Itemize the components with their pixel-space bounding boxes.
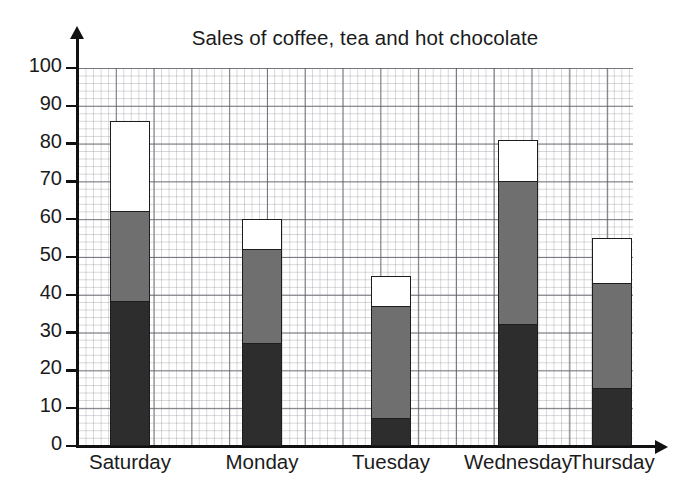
- bar-segment-coffee: [372, 419, 410, 445]
- bar-segment-coffee: [111, 302, 149, 445]
- y-axis-tick: [66, 331, 78, 334]
- y-axis-tick: [66, 218, 78, 221]
- y-axis-tick: [66, 256, 78, 259]
- chart-figure: Sales of coffee, tea and hot chocolate 1…: [0, 0, 691, 491]
- bar-segment-hot-chocolate: [593, 239, 631, 284]
- bar-saturday: [110, 121, 150, 446]
- y-axis-tick: [66, 67, 78, 70]
- y-axis-tick: [66, 369, 78, 372]
- chart-title: Sales of coffee, tea and hot chocolate: [130, 26, 600, 50]
- bar-segment-hot-chocolate: [243, 220, 281, 250]
- y-axis-tick-label: 80: [0, 130, 62, 153]
- bar-monday: [242, 219, 282, 446]
- y-axis-tick-label: 30: [0, 319, 62, 342]
- bar-segment-tea: [111, 212, 149, 302]
- y-axis-tick: [66, 180, 78, 183]
- y-axis-line: [76, 33, 79, 447]
- y-axis-tick-label: 40: [0, 281, 62, 304]
- bar-segment-coffee: [243, 344, 281, 445]
- bar-tuesday: [371, 276, 411, 446]
- x-axis-line: [76, 445, 661, 448]
- bar-segment-coffee: [499, 325, 537, 445]
- y-axis-tick-label: 60: [0, 205, 62, 228]
- y-axis-tick-label: 50: [0, 243, 62, 266]
- bar-thursday: [592, 238, 632, 446]
- y-axis-arrow-icon: [70, 26, 84, 39]
- bar-wednesday: [498, 140, 538, 446]
- bar-segment-tea: [593, 284, 631, 389]
- x-axis-label-thursday: Thursday: [532, 450, 691, 474]
- bar-segment-tea: [243, 250, 281, 344]
- y-axis-tick: [66, 105, 78, 108]
- plot-area: [78, 68, 633, 446]
- bar-segment-tea: [372, 307, 410, 419]
- bar-segment-hot-chocolate: [372, 277, 410, 307]
- y-axis-tick: [66, 445, 78, 448]
- bar-segment-hot-chocolate: [111, 122, 149, 212]
- y-axis-tick: [66, 142, 78, 145]
- bar-segment-coffee: [593, 389, 631, 445]
- y-axis-tick-label: 20: [0, 356, 62, 379]
- y-axis-tick: [66, 407, 78, 410]
- y-axis-tick-label: 70: [0, 167, 62, 190]
- bar-segment-hot-chocolate: [499, 141, 537, 182]
- bar-segment-tea: [499, 182, 537, 325]
- y-axis-tick-label: 10: [0, 394, 62, 417]
- y-axis-tick-label: 100: [0, 54, 62, 77]
- y-axis-tick: [66, 294, 78, 297]
- y-axis-tick-label: 90: [0, 92, 62, 115]
